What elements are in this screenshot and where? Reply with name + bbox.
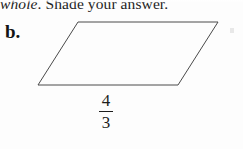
- parallelogram-outline: [38, 22, 218, 85]
- scanned-worksheet-page: whole. Shade your answer. b. 4 3: [0, 0, 243, 149]
- parallelogram-figure: [0, 0, 243, 149]
- base-length-fraction: 4 3: [93, 92, 119, 131]
- fraction-bar: [99, 111, 113, 112]
- fraction-denominator: 3: [93, 113, 119, 131]
- fraction-numerator: 4: [93, 92, 119, 110]
